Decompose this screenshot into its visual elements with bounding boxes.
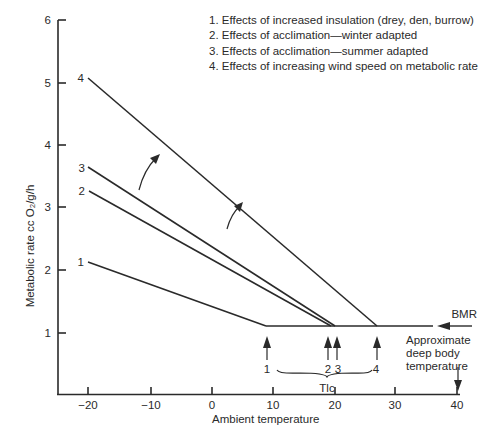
legend-item-1: 1. Effects of increased insulation (drey… (209, 13, 478, 28)
y-ticks (58, 20, 66, 333)
svg-text:4: 4 (373, 363, 380, 375)
svg-text:4: 4 (78, 72, 85, 84)
arrow-left-icon (437, 322, 450, 330)
curved-arrow-icon (139, 158, 156, 190)
arrow-up-icon (263, 336, 271, 348)
legend-item-2: 2. Effects of acclimation—winter adapted (209, 28, 478, 43)
svg-text:−20: −20 (78, 399, 98, 411)
svg-text:1: 1 (45, 327, 51, 339)
series-line-3 (88, 167, 335, 326)
series-line-4 (88, 78, 377, 326)
svg-text:2: 2 (325, 363, 331, 375)
svg-text:30: 30 (389, 399, 402, 411)
y-axis-label: Metabolic rate cc O₂/g/h (24, 166, 36, 326)
svg-text:6: 6 (45, 14, 51, 26)
svg-text:10: 10 (267, 399, 280, 411)
arrow-down-icon (454, 380, 462, 391)
svg-text:20: 20 (329, 399, 342, 411)
svg-text:3: 3 (79, 162, 85, 174)
legend: 1. Effects of increased insulation (drey… (209, 13, 478, 74)
svg-text:2: 2 (79, 185, 85, 197)
x-tick-labels: −20 −10 0 10 20 30 40 (78, 399, 463, 411)
y-tick-labels: 1 2 3 4 5 6 (45, 14, 52, 339)
tlc-arrows (263, 336, 381, 360)
deep-body-temp-note: Approximate deep body temperature (406, 334, 471, 373)
svg-text:5: 5 (45, 77, 51, 89)
bmr-label: BMR (451, 308, 477, 320)
svg-text:3: 3 (45, 201, 51, 213)
svg-text:0: 0 (209, 399, 215, 411)
svg-text:4: 4 (45, 139, 52, 151)
x-axis-label: Ambient temperature (212, 413, 319, 425)
legend-item-3: 3. Effects of acclimation—summer adapted (209, 44, 478, 59)
line-labels: 1 2 3 4 (78, 72, 85, 268)
tlc-label: Tlc (319, 382, 335, 394)
shift-arrows (139, 158, 240, 229)
svg-text:1: 1 (78, 256, 84, 268)
legend-item-4: 4. Effects of increasing wind speed on m… (209, 59, 478, 74)
svg-text:2: 2 (45, 264, 51, 276)
arrow-up-icon (333, 336, 341, 348)
svg-text:−10: −10 (141, 399, 161, 411)
svg-text:1: 1 (264, 363, 270, 375)
series-line-1 (88, 262, 266, 326)
svg-text:40: 40 (451, 399, 464, 411)
arrow-up-icon (324, 336, 332, 348)
arrow-up-icon (373, 336, 381, 348)
